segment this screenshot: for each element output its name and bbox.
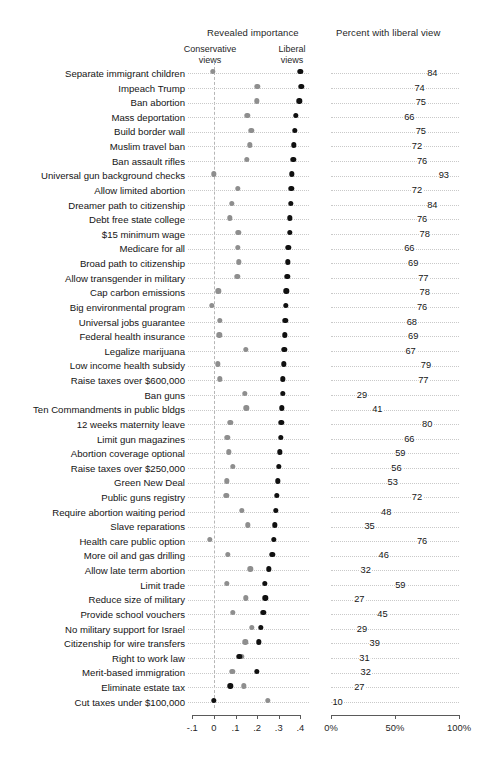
guide-dotted-line	[188, 614, 309, 616]
revealed-importance-plot-row	[188, 651, 309, 667]
revealed-importance-plot-row	[188, 563, 309, 579]
percent-value-label: 29	[357, 622, 368, 638]
percent-value-label: 69	[408, 256, 419, 272]
revealed-importance-plot-row	[188, 432, 309, 448]
revealed-importance-plot-row	[188, 607, 309, 623]
guide-dotted-line	[188, 453, 309, 455]
guide-dotted-line	[188, 73, 309, 75]
row-label: Federal health insurance	[0, 329, 185, 345]
percent-liberal-plot-row: 35	[331, 519, 459, 535]
percent-value-label: 67	[405, 344, 416, 360]
percent-value-label: 59	[395, 446, 406, 462]
row-label: 12 weeks maternity leave	[0, 417, 185, 433]
percent-liberal-plot-row: 78	[331, 227, 459, 243]
percent-liberal-plot-row: 79	[331, 358, 459, 374]
guide-dotted-line	[188, 556, 309, 558]
row-label: Big environmental program	[0, 300, 185, 316]
percent-value-label: 10	[332, 695, 343, 711]
percent-value-label: 76	[417, 300, 428, 316]
row-label: Cut taxes under $100,000	[0, 695, 185, 711]
revealed-importance-plot-row	[188, 519, 309, 535]
liberal-annotation-line2: views	[262, 55, 322, 66]
guide-dotted-line	[331, 161, 459, 163]
guide-dotted-line	[331, 293, 459, 295]
revealed-importance-plot-row	[188, 139, 309, 155]
left-axis-tick	[257, 715, 258, 719]
revealed-importance-plot-row	[188, 548, 309, 564]
percent-value-label: 41	[372, 402, 383, 418]
percent-value-label: 75	[416, 95, 427, 111]
guide-dotted-line	[331, 190, 459, 192]
percent-liberal-plot-row: 39	[331, 636, 459, 652]
row-label: Limit gun magazines	[0, 432, 185, 448]
table-row: Muslim travel ban72	[0, 139, 486, 155]
guide-dotted-line	[188, 585, 309, 587]
table-row: Mass deportation66	[0, 110, 486, 126]
guide-dotted-line	[188, 103, 309, 105]
guide-dotted-line	[331, 614, 459, 616]
percent-liberal-plot-row: 66	[331, 241, 459, 257]
row-label: Allow limited abortion	[0, 183, 185, 199]
revealed-importance-plot-row	[188, 212, 309, 228]
table-row: Merit-based immigration32	[0, 665, 486, 681]
percent-liberal-plot-row: 76	[331, 300, 459, 316]
revealed-importance-plot-row	[188, 490, 309, 506]
row-label: Green New Deal	[0, 475, 185, 491]
percent-liberal-plot-row: 56	[331, 461, 459, 477]
percent-liberal-plot-row: 31	[331, 651, 459, 667]
guide-dotted-line	[188, 249, 309, 251]
guide-dotted-line	[331, 88, 459, 90]
revealed-importance-plot-row	[188, 154, 309, 170]
percent-value-label: 56	[391, 461, 402, 477]
left-axis-tick-label: .2	[253, 722, 261, 733]
table-row: Require abortion waiting period48	[0, 505, 486, 521]
right-axis-tick	[331, 715, 332, 719]
row-label: Mass deportation	[0, 110, 185, 126]
conservative-annotation-line1: Conservative	[170, 44, 250, 55]
percent-liberal-plot-row: 75	[331, 124, 459, 140]
guide-dotted-line	[331, 497, 459, 499]
percent-liberal-plot-row: 93	[331, 168, 459, 184]
percent-value-label: 68	[407, 315, 418, 331]
table-row: Ban abortion75	[0, 95, 486, 111]
row-label: Right to work law	[0, 651, 185, 667]
table-row: Raise taxes over $600,00077	[0, 373, 486, 389]
guide-dotted-line	[331, 336, 459, 338]
guide-dotted-line	[188, 673, 309, 675]
guide-dotted-line	[331, 73, 459, 75]
right-axis-tick-label: 0%	[324, 722, 338, 733]
percent-value-label: 32	[361, 563, 372, 579]
table-row: Slave reparations35	[0, 519, 486, 535]
percent-liberal-plot-row: 32	[331, 665, 459, 681]
liberal-annotation-line1: Liberal	[262, 44, 322, 55]
percent-liberal-plot-row: 84	[331, 66, 459, 82]
percent-liberal-plot-row: 29	[331, 388, 459, 404]
table-row: Allow late term abortion32	[0, 563, 486, 579]
revealed-importance-plot-row	[188, 81, 309, 97]
table-row: Allow limited abortion72	[0, 183, 486, 199]
percent-value-label: 72	[412, 490, 423, 506]
table-row: Reduce size of military27	[0, 592, 486, 608]
revealed-importance-plot-row	[188, 227, 309, 243]
percent-value-label: 66	[404, 241, 415, 257]
conservative-annotation-line2: views	[170, 55, 250, 66]
table-row: Dreamer path to citizenship84	[0, 198, 486, 214]
table-row: Cut taxes under $100,00010	[0, 695, 486, 711]
table-row: Ban assault rifles76	[0, 154, 486, 170]
revealed-importance-plot-row	[188, 636, 309, 652]
percent-value-label: 59	[395, 578, 406, 594]
percent-liberal-plot-row: 77	[331, 271, 459, 287]
row-label: Medicare for all	[0, 241, 185, 257]
guide-dotted-line	[331, 380, 459, 382]
left-axis-tick-label: .3	[275, 722, 283, 733]
row-label: Ban guns	[0, 388, 185, 404]
percent-value-label: 72	[412, 183, 423, 199]
row-label: Limit trade	[0, 578, 185, 594]
revealed-importance-plot-row	[188, 695, 309, 711]
guide-dotted-line	[188, 88, 309, 90]
percent-value-label: 93	[439, 168, 450, 184]
percent-liberal-plot-row: 41	[331, 402, 459, 418]
guide-dotted-line	[331, 424, 459, 426]
percent-value-label: 31	[359, 651, 370, 667]
guide-dotted-line	[331, 366, 459, 368]
